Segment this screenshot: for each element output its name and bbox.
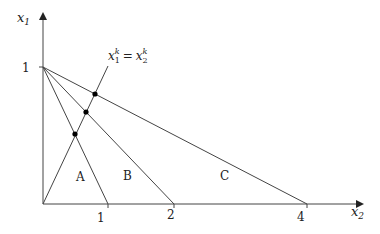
region-label-c: C <box>220 169 229 183</box>
intersection-point-a <box>72 131 77 136</box>
region-label-b: B <box>123 169 132 183</box>
x-tick-label-2: 2 <box>167 208 175 222</box>
x-tick-label-1: 1 <box>97 211 105 225</box>
intersection-point-c <box>92 91 97 96</box>
diagonal-annotation: xk1=xk2 <box>108 47 148 65</box>
intersection-point-b <box>83 109 88 114</box>
y-tick-label-1: 1 <box>22 61 30 75</box>
y-axis-label: x1 <box>17 10 30 27</box>
x-axis-label: x2 <box>351 204 364 221</box>
x-tick-label-4: 4 <box>297 210 305 224</box>
line-to-2 <box>43 67 174 204</box>
region-label-a: A <box>75 170 85 184</box>
diagram: x1 x2 1 1 2 4 xk1=xk2 A B C <box>0 0 380 234</box>
